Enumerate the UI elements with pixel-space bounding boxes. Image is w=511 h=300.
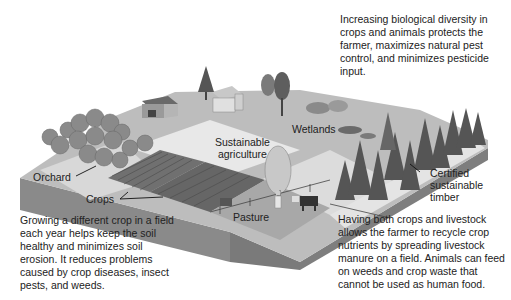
label-sustainable-line1: Sustainable xyxy=(215,136,270,148)
label-timber-line2: sustainable xyxy=(430,179,483,191)
callout-livestock: Having both crops and livestock allows t… xyxy=(338,213,510,291)
label-wetlands: Wetlands xyxy=(292,123,336,135)
label-timber-line3: timber xyxy=(430,191,483,203)
label-orchard: Orchard xyxy=(33,171,71,183)
label-crops: Crops xyxy=(86,193,114,205)
label-sustainable-agriculture: Sustainable agriculture xyxy=(215,136,270,160)
farmhouse xyxy=(212,86,243,112)
callout-crop-rotation: Growing a different crop in a field each… xyxy=(20,214,180,292)
farmer xyxy=(275,191,281,209)
label-timber-line1: Certified xyxy=(430,167,483,179)
label-pasture: Pasture xyxy=(233,211,269,223)
callout-biodiversity: Increasing biological diversity in crops… xyxy=(340,13,505,78)
label-certified-timber: Certified sustainable timber xyxy=(430,167,483,203)
label-sustainable-line2: agriculture xyxy=(215,148,270,160)
